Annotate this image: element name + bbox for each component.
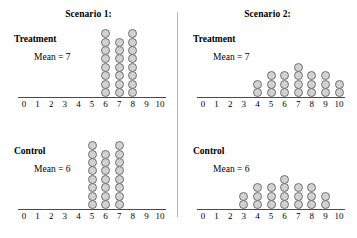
data-dot	[101, 29, 110, 38]
axis-tick-label: 1	[214, 211, 219, 221]
axis-tick-label: 7	[117, 99, 122, 109]
scenario-title: Scenario 2:	[179, 9, 356, 19]
data-dot	[101, 71, 110, 80]
scenario-panel-1: Scenario 1: Treatment Mean = 7 012345678…	[0, 0, 177, 238]
scenario-panel-2: Scenario 2: Treatment Mean = 7 012345678…	[179, 0, 356, 238]
data-dot	[280, 200, 289, 209]
data-dot	[88, 200, 97, 209]
data-dot	[280, 192, 289, 201]
data-dot	[128, 63, 137, 72]
data-dot	[115, 63, 124, 72]
axis-tick-label: 6	[282, 99, 287, 109]
axis-tick-label: 10	[335, 99, 344, 109]
data-dot	[280, 175, 289, 184]
axis-tick-label: 9	[323, 99, 328, 109]
axis-tick-label: 9	[323, 211, 328, 221]
data-dot	[335, 80, 344, 89]
data-dot	[253, 88, 262, 97]
dot-layer	[197, 24, 345, 97]
data-dot	[101, 200, 110, 209]
data-dot	[128, 38, 137, 47]
axis-tick-label: 6	[103, 211, 108, 221]
data-dot	[115, 150, 124, 159]
data-dot	[115, 80, 124, 89]
dot-plot: 012345678910	[18, 24, 166, 120]
axis-tick-label: 8	[131, 99, 136, 109]
data-dot	[101, 80, 110, 89]
data-dot	[307, 183, 316, 192]
data-dot	[307, 200, 316, 209]
data-dot	[88, 158, 97, 167]
axis-tick-label: 1	[35, 99, 40, 109]
axis-tick-label: 0	[201, 99, 206, 109]
data-dot	[101, 63, 110, 72]
data-dot	[294, 183, 303, 192]
data-dot	[128, 71, 137, 80]
panel-scenario2-treatment: Treatment Mean = 7 012345678910	[179, 24, 356, 120]
data-dot	[115, 54, 124, 63]
axis-tick-label: 10	[335, 211, 344, 221]
axis-tick-label: 4	[255, 99, 260, 109]
dot-plot: 012345678910	[197, 136, 345, 232]
data-dot	[321, 192, 330, 201]
axis-tick-label: 4	[255, 211, 260, 221]
data-dot	[115, 46, 124, 55]
dot-plot: 012345678910	[18, 136, 166, 232]
axis-tick-label: 5	[90, 211, 95, 221]
data-dot	[267, 80, 276, 89]
data-dot	[101, 158, 110, 167]
data-dot	[115, 88, 124, 97]
data-dot	[128, 54, 137, 63]
data-dot	[280, 88, 289, 97]
data-dot	[294, 71, 303, 80]
axis-tick-label: 2	[49, 99, 54, 109]
data-dot	[253, 183, 262, 192]
axis-tick-label: 7	[296, 99, 301, 109]
dot-layer	[18, 136, 166, 209]
panel-scenario1-control: Control Mean = 6 012345678910	[0, 136, 177, 232]
axis-tick-label: 8	[131, 211, 136, 221]
axis-tick-label: 1	[35, 211, 40, 221]
axis-tick-label: 7	[296, 211, 301, 221]
axis-line	[197, 209, 345, 210]
axis-line	[197, 97, 345, 98]
data-dot	[128, 46, 137, 55]
axis-tick-label: 4	[76, 211, 81, 221]
data-dot	[253, 80, 262, 89]
data-dot	[267, 71, 276, 80]
axis-tick-label: 9	[144, 99, 149, 109]
axis-tick-label: 3	[242, 99, 247, 109]
data-dot	[115, 200, 124, 209]
data-dot	[88, 192, 97, 201]
data-dot	[335, 88, 344, 97]
data-dot	[253, 200, 262, 209]
data-dot	[267, 183, 276, 192]
data-dot	[115, 183, 124, 192]
axis-tick-labels: 012345678910	[197, 211, 345, 225]
axis-tick-label: 4	[76, 99, 81, 109]
panel-scenario1-treatment: Treatment Mean = 7 012345678910	[0, 24, 177, 120]
data-dot	[101, 46, 110, 55]
axis-tick-label: 6	[282, 211, 287, 221]
data-dot	[267, 200, 276, 209]
axis-tick-label: 0	[22, 99, 27, 109]
axis-tick-label: 1	[214, 99, 219, 109]
axis-tick-label: 0	[201, 211, 206, 221]
data-dot	[101, 183, 110, 192]
axis-tick-label: 5	[269, 99, 274, 109]
data-dot	[280, 80, 289, 89]
data-dot	[128, 29, 137, 38]
data-dot	[321, 71, 330, 80]
data-dot	[307, 88, 316, 97]
data-dot	[115, 141, 124, 150]
axis-tick-label: 8	[310, 99, 315, 109]
data-dot	[239, 200, 248, 209]
axis-tick-label: 10	[156, 211, 165, 221]
data-dot	[294, 63, 303, 72]
data-dot	[294, 192, 303, 201]
axis-tick-label: 5	[269, 211, 274, 221]
axis-tick-label: 2	[49, 211, 54, 221]
panel-scenario2-control: Control Mean = 6 012345678910	[179, 136, 356, 232]
dot-layer	[18, 24, 166, 97]
data-dot	[294, 88, 303, 97]
